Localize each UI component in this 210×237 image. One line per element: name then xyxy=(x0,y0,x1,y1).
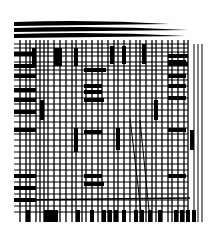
h-bar xyxy=(14,64,36,68)
h-bar xyxy=(168,84,186,88)
h-bar xyxy=(84,68,106,72)
v-bar xyxy=(32,48,36,66)
v-bar xyxy=(154,100,158,120)
arc-stroke xyxy=(14,21,170,26)
bottom-tooth xyxy=(148,210,152,222)
bottom-tooth xyxy=(26,210,30,222)
h-bar xyxy=(84,130,102,134)
bottom-tooth xyxy=(48,210,52,222)
h-bar xyxy=(14,88,36,92)
h-bar xyxy=(168,128,186,132)
bottom-tooth xyxy=(102,210,106,222)
v-bar xyxy=(58,48,62,66)
h-bar xyxy=(14,98,36,102)
h-bar xyxy=(14,186,36,190)
bottom-tooth xyxy=(174,210,178,222)
h-bar xyxy=(168,74,186,78)
h-bar xyxy=(84,98,104,102)
v-bar xyxy=(122,46,126,64)
h-bar xyxy=(84,174,102,178)
h-bar xyxy=(14,52,36,56)
bottom-tooth xyxy=(76,210,80,222)
v-bar xyxy=(116,128,120,150)
h-bar xyxy=(84,84,102,88)
bottom-tooth xyxy=(54,210,58,222)
abstract-line-artwork xyxy=(0,0,210,237)
bottom-tooth xyxy=(114,210,118,222)
v-bar xyxy=(142,44,146,64)
arc-stroke xyxy=(14,33,186,38)
bottom-tooth xyxy=(192,210,196,222)
bottom-tooth xyxy=(180,210,184,222)
h-bar xyxy=(84,182,104,186)
v-bar xyxy=(54,48,58,66)
h-bar xyxy=(14,174,36,178)
v-bar xyxy=(74,48,78,66)
h-bar xyxy=(14,128,36,132)
arc-stroke xyxy=(14,27,188,32)
h-bar xyxy=(14,110,36,114)
h-bar xyxy=(168,96,186,100)
bottom-tooth xyxy=(90,210,94,222)
h-bar xyxy=(168,54,188,58)
h-bar xyxy=(84,90,102,94)
bottom-tooth xyxy=(108,210,112,222)
bottom-tooth xyxy=(158,210,162,222)
v-bar xyxy=(190,130,194,150)
h-bar xyxy=(168,60,186,64)
bottom-tooth xyxy=(140,210,144,222)
v-bar xyxy=(40,100,44,120)
h-bar xyxy=(168,174,186,178)
v-bar xyxy=(110,46,114,64)
bottom-tooth xyxy=(44,210,48,222)
h-bar xyxy=(14,74,36,78)
v-bar xyxy=(74,128,78,152)
bottom-tooth xyxy=(186,210,190,222)
bottom-tooth xyxy=(134,210,138,222)
bottom-tooth xyxy=(122,210,126,222)
